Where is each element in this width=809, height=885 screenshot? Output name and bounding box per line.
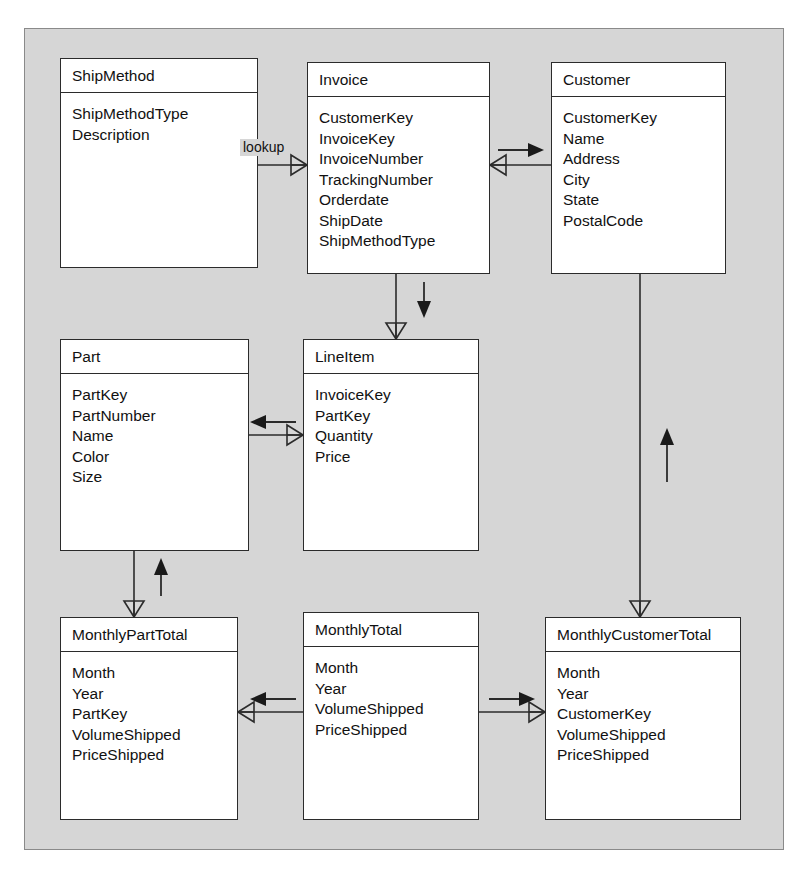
entity-attribute: InvoiceNumber: [319, 149, 478, 170]
entity-title: Invoice: [308, 63, 489, 97]
entity-attribute: Month: [315, 658, 467, 679]
entity-attribute: City: [563, 170, 714, 191]
entity-attribute: PartKey: [72, 385, 237, 406]
entity-attribute: ShipMethodType: [319, 231, 478, 252]
entity-attribute: ShipMethodType: [72, 104, 246, 125]
entity-attribute: InvoiceKey: [315, 385, 467, 406]
entity-attribute: CustomerKey: [563, 108, 714, 129]
entity-attribute: InvoiceKey: [319, 129, 478, 150]
entity-attribute: Month: [557, 663, 729, 684]
entity-attribute: CustomerKey: [557, 704, 729, 725]
entity-attribute: PriceShipped: [315, 720, 467, 741]
entity-monthlytotal[interactable]: MonthlyTotal Month Year VolumeShipped Pr…: [303, 612, 479, 820]
entity-attribute: Size: [72, 467, 237, 488]
entity-lineitem[interactable]: LineItem InvoiceKey PartKey Quantity Pri…: [303, 339, 479, 551]
entity-monthlyparttotal[interactable]: MonthlyPartTotal Month Year PartKey Volu…: [60, 617, 238, 820]
entity-title: MonthlyCustomerTotal: [546, 618, 740, 652]
entity-shipmethod[interactable]: ShipMethod ShipMethodType Description: [60, 58, 258, 268]
entity-attribute: Color: [72, 447, 237, 468]
entity-attribute: TrackingNumber: [319, 170, 478, 191]
entity-attribute: PostalCode: [563, 211, 714, 232]
entity-title: ShipMethod: [61, 59, 257, 93]
entity-attribute: Quantity: [315, 426, 467, 447]
entity-title: MonthlyTotal: [304, 613, 478, 647]
entity-attribute: VolumeShipped: [557, 725, 729, 746]
entity-attribute: Year: [315, 679, 467, 700]
entity-attribute: PartNumber: [72, 406, 237, 427]
entity-attribute: Year: [557, 684, 729, 705]
entity-title: LineItem: [304, 340, 478, 374]
entity-attribute: Name: [563, 129, 714, 150]
entity-title: MonthlyPartTotal: [61, 618, 237, 652]
entity-title: Part: [61, 340, 248, 374]
entity-customer[interactable]: Customer CustomerKey Name Address City S…: [551, 62, 726, 274]
entity-attribute: PriceShipped: [72, 745, 226, 766]
entity-attribute: Year: [72, 684, 226, 705]
entity-attribute: Price: [315, 447, 467, 468]
entity-title: Customer: [552, 63, 725, 97]
entity-attribute: PriceShipped: [557, 745, 729, 766]
entity-attribute: ShipDate: [319, 211, 478, 232]
entity-attribute: PartKey: [315, 406, 467, 427]
entity-attribute: CustomerKey: [319, 108, 478, 129]
edge-label-lookup: lookup: [240, 139, 287, 156]
entity-attribute-list: ShipMethodType Description: [61, 93, 257, 145]
entity-attribute-list: CustomerKey InvoiceKey InvoiceNumber Tra…: [308, 97, 489, 252]
entity-attribute: VolumeShipped: [72, 725, 226, 746]
entity-attribute: Description: [72, 125, 246, 146]
entity-attribute: Address: [563, 149, 714, 170]
entity-attribute-list: PartKey PartNumber Name Color Size: [61, 374, 248, 488]
entity-attribute: PartKey: [72, 704, 226, 725]
entity-attribute: Name: [72, 426, 237, 447]
er-diagram-canvas: lookup ShipMethod ShipMethodType Descrip…: [0, 0, 809, 885]
entity-attribute-list: Month Year PartKey VolumeShipped PriceSh…: [61, 652, 237, 766]
entity-monthlycustomertotal[interactable]: MonthlyCustomerTotal Month Year Customer…: [545, 617, 741, 820]
entity-attribute: VolumeShipped: [315, 699, 467, 720]
entity-attribute-list: InvoiceKey PartKey Quantity Price: [304, 374, 478, 467]
entity-attribute-list: Month Year VolumeShipped PriceShipped: [304, 647, 478, 740]
entity-attribute-list: CustomerKey Name Address City State Post…: [552, 97, 725, 231]
entity-attribute: State: [563, 190, 714, 211]
entity-attribute-list: Month Year CustomerKey VolumeShipped Pri…: [546, 652, 740, 766]
entity-part[interactable]: Part PartKey PartNumber Name Color Size: [60, 339, 249, 551]
entity-attribute: Month: [72, 663, 226, 684]
entity-attribute: Orderdate: [319, 190, 478, 211]
entity-invoice[interactable]: Invoice CustomerKey InvoiceKey InvoiceNu…: [307, 62, 490, 274]
